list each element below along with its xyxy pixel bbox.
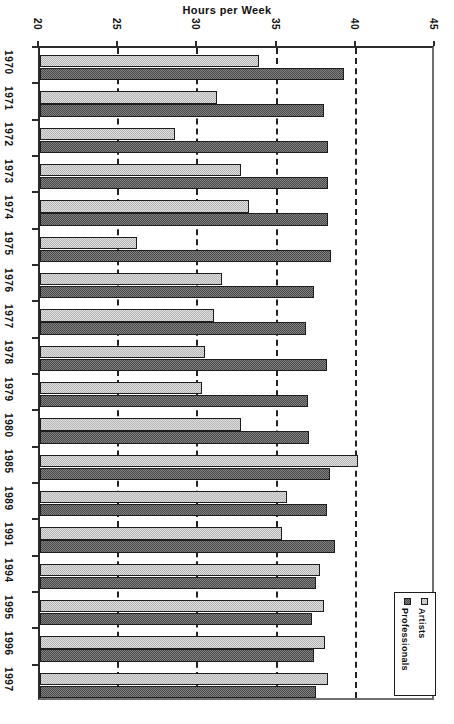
bar-professionals-1979: [40, 395, 308, 408]
bar-artists-1976: [40, 273, 222, 286]
bar-professionals-1980: [40, 431, 309, 444]
bar-artists-1973: [40, 164, 241, 177]
bar-professionals-1970: [40, 68, 344, 81]
category-label-1973: 1973: [3, 159, 14, 184]
bar-artists-1972: [40, 128, 175, 141]
legend-label-professionals: Professionals: [400, 608, 410, 671]
category-label-1991: 1991: [3, 522, 14, 547]
x-axis-tick-label: 45: [428, 18, 439, 30]
bar-artists-1996: [40, 636, 325, 649]
bar-professionals-1976: [40, 286, 314, 299]
legend-swatch-professionals: [404, 598, 411, 605]
bar-professionals-1974: [40, 213, 328, 226]
category-label-1979: 1979: [3, 377, 14, 402]
bar-artists-1974: [40, 200, 249, 213]
bar-artists-1991: [40, 527, 282, 540]
bar-artists-1980: [40, 418, 241, 431]
bar-professionals-1989: [40, 504, 327, 517]
bar-artists-1971: [40, 91, 217, 104]
bar-artists-1985: [40, 455, 358, 468]
category-label-1989: 1989: [3, 486, 14, 511]
category-label-1971: 1971: [3, 86, 14, 111]
bar-artists-1970: [40, 55, 259, 68]
category-label-1975: 1975: [3, 231, 14, 256]
bar-professionals-1997: [40, 686, 316, 699]
plot-area: [38, 46, 434, 700]
category-label-1977: 1977: [3, 304, 14, 329]
gridline: [355, 48, 357, 698]
category-label-1996: 1996: [3, 631, 14, 656]
bar-professionals-1996: [40, 649, 314, 662]
bar-professionals-1978: [40, 359, 327, 372]
legend: ArtistsProfessionals: [394, 592, 436, 696]
category-label-1980: 1980: [3, 413, 14, 438]
bar-professionals-1995: [40, 613, 312, 626]
legend-label-artists: Artists: [417, 608, 427, 639]
bar-artists-1975: [40, 237, 137, 250]
x-axis-tick-label: 20: [32, 18, 43, 30]
category-label-1972: 1972: [3, 122, 14, 147]
bar-artists-1977: [40, 309, 214, 322]
category-label-1985: 1985: [3, 449, 14, 474]
bar-artists-1979: [40, 382, 202, 395]
category-label-1997: 1997: [3, 667, 14, 692]
category-label-1994: 1994: [3, 558, 14, 583]
bar-artists-1995: [40, 600, 324, 613]
bar-professionals-1975: [40, 250, 331, 263]
bar-artists-1997: [40, 673, 328, 686]
bar-chart: Hours per Week 202530354045 197019711972…: [0, 0, 454, 724]
bar-artists-1989: [40, 491, 287, 504]
category-label-1974: 1974: [3, 195, 14, 220]
bar-professionals-1972: [40, 141, 328, 154]
bar-professionals-1973: [40, 177, 328, 190]
bar-professionals-1977: [40, 322, 306, 335]
chart-title: Hours per Week: [0, 4, 454, 16]
x-axis-tick-label: 25: [111, 18, 122, 30]
x-axis-tick-label: 40: [349, 18, 360, 30]
category-label-1995: 1995: [3, 595, 14, 620]
category-label-1970: 1970: [3, 50, 14, 75]
bar-artists-1978: [40, 346, 205, 359]
bar-professionals-1985: [40, 468, 330, 481]
x-axis-tick-label: 30: [190, 18, 201, 30]
x-axis-tick-label: 35: [270, 18, 281, 30]
category-label-1978: 1978: [3, 340, 14, 365]
bar-professionals-1971: [40, 104, 324, 117]
bar-artists-1994: [40, 564, 320, 577]
bar-professionals-1994: [40, 577, 316, 590]
bar-professionals-1991: [40, 540, 335, 553]
category-label-1976: 1976: [3, 268, 14, 293]
legend-swatch-artists: [421, 598, 428, 605]
